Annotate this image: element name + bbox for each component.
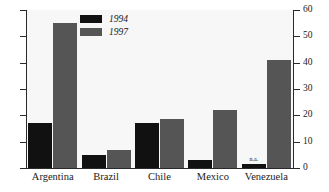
right-axis-tick-label: 0 <box>303 163 308 173</box>
bar <box>213 110 237 168</box>
right-axis-tick <box>293 89 300 90</box>
bar <box>242 164 266 168</box>
bar <box>28 123 52 168</box>
bar <box>267 60 291 168</box>
bar <box>53 23 77 168</box>
right-axis-tick-label: 30 <box>303 84 313 94</box>
right-axis-tick <box>293 142 300 143</box>
bar-chart-figure: 0102030405060 n.a. ArgentinaBrazilChileM… <box>0 0 329 192</box>
bar <box>188 160 212 168</box>
left-axis-tick <box>20 36 27 37</box>
right-axis-tick <box>293 36 300 37</box>
right-axis-tick-label: 50 <box>303 31 313 41</box>
category-label: Argentina <box>26 171 79 184</box>
right-axis-tick <box>293 168 300 169</box>
left-axis-tick <box>20 89 27 90</box>
right-axis-tick-label: 40 <box>303 58 313 68</box>
x-axis-baseline <box>26 168 294 169</box>
right-axis-tick-label: 60 <box>303 5 313 15</box>
right-axis-tick <box>293 63 300 64</box>
left-axis-tick <box>20 168 27 169</box>
right-axis-tick <box>293 115 300 116</box>
na-annotation: n.a. <box>242 156 266 162</box>
left-axis-tick <box>20 142 27 143</box>
legend-swatch-1994 <box>80 15 102 23</box>
left-axis-tick <box>20 63 27 64</box>
left-axis-tick <box>20 10 27 11</box>
bar <box>107 150 131 168</box>
right-axis-tick-label: 10 <box>303 137 313 147</box>
bar <box>135 123 159 168</box>
category-label: Mexico <box>186 171 239 184</box>
category-label: Venezuela <box>240 171 293 184</box>
bar <box>160 119 184 168</box>
bar <box>82 155 106 168</box>
legend-swatch-1997 <box>80 28 102 36</box>
left-axis-tick <box>20 115 27 116</box>
category-label: Brazil <box>79 171 132 184</box>
category-label: Chile <box>133 171 186 184</box>
right-axis-tick <box>293 10 300 11</box>
right-axis-tick-label: 20 <box>303 110 313 120</box>
legend-label-1997: 1997 <box>109 27 128 38</box>
legend-label-1994: 1994 <box>109 14 128 25</box>
